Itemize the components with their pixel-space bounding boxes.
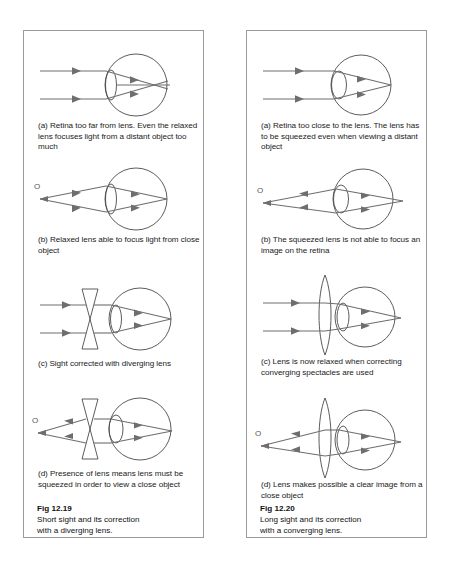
eyeball-outline <box>331 55 391 115</box>
between-lens-ray-top <box>325 303 339 304</box>
diagram-block-12-20-d: O (d) Lens makes possible a clear image … <box>247 394 426 501</box>
diagram-block-12-19-b: O (b) Relaxed lens able to focus light f… <box>24 163 203 256</box>
diagram-block-12-19-d: O (d) Presence of lens means lens must b… <box>24 389 203 490</box>
object-ray-top <box>261 430 325 446</box>
eye-lens-relaxed <box>110 305 121 333</box>
figure-number-12-20: Fig 12.20 <box>260 504 304 515</box>
panel-caption-12-20-c: (c) Lens is now relaxed when correcting … <box>247 357 426 378</box>
refracted-ray-bottom <box>106 199 167 212</box>
eye-diagram-12-20-b: O <box>251 163 423 235</box>
eye-diagram-12-19-b: O <box>28 163 200 235</box>
diagram-block-12-19-c: (c) Sight corrected with diverging lens <box>24 279 203 370</box>
eye-lens-relaxed <box>105 184 116 214</box>
refracted-ray-bottom <box>336 201 403 213</box>
refracted-ray-bottom <box>334 85 391 99</box>
refracted-ray-top <box>106 186 167 199</box>
panel-caption-12-19-a: (a) Retina too far from lens. Even the r… <box>24 121 203 153</box>
diverging-spectacle-lens <box>82 399 98 459</box>
panel-caption-12-20-a: (a) Retina too close to the lens. The le… <box>247 121 426 153</box>
eye-diagram-12-19-c <box>28 279 200 359</box>
refracted-ray-bottom <box>111 431 172 443</box>
diagram-block-12-20-a: (a) Retina too close to the lens. The le… <box>247 49 426 153</box>
object-ray-bottom <box>263 203 336 213</box>
refracted-ray-bottom <box>106 81 168 99</box>
ray-arrowheads <box>295 67 366 103</box>
eyeball-outline <box>335 287 395 347</box>
eyeball-outline <box>335 410 395 470</box>
eye-lens-relaxed <box>105 70 116 100</box>
panel-caption-12-19-d: (d) Presence of lens means lens must be … <box>24 469 203 490</box>
figure-title-text-12-20: Long sight and its correction with a con… <box>260 515 376 537</box>
panel-caption-12-19-b: (b) Relaxed lens able to focus light fro… <box>24 235 203 256</box>
eye-lens-relaxed <box>337 303 349 331</box>
object-point-label: O <box>32 416 38 425</box>
eye-diagram-12-20-a <box>251 49 423 121</box>
figure-title-12-19: Fig 12.19Short sight and its correction … <box>24 504 203 536</box>
figure-panel-short-sight: (a) Retina too far from lens. Even the r… <box>23 30 204 538</box>
object-point-label: O <box>257 186 263 195</box>
between-lens-ray-bottom <box>325 329 339 331</box>
eyeball-outline <box>109 288 171 350</box>
refracted-ray-top <box>111 305 171 319</box>
figure-title-12-20: Fig 12.20Long sight and its correction w… <box>247 504 426 536</box>
ray-arrowheads <box>62 301 143 337</box>
figure-panel-long-sight: (a) Retina too close to the lens. The le… <box>246 30 427 538</box>
between-lens-ray-bottom <box>325 454 339 456</box>
object-ray-top <box>263 189 336 203</box>
diagram-block-12-20-c: (c) Lens is now relaxed when correcting … <box>247 271 426 378</box>
eye-diagram-12-19-a <box>28 49 200 121</box>
converging-spectacle-lens <box>319 398 331 478</box>
object-point-label: O <box>34 182 40 191</box>
figure-title-text-12-19: Short sight and its correction with a di… <box>37 515 153 537</box>
eyeball-outline <box>333 169 393 229</box>
eye-diagram-12-20-d: O <box>251 394 423 480</box>
diverging-spectacle-lens <box>82 289 98 349</box>
eyeball-outline <box>105 168 167 230</box>
panel-caption-12-20-d: (d) Lens makes possible a clear image fr… <box>247 480 426 501</box>
figure-number-12-19: Fig 12.19 <box>37 504 81 515</box>
refracted-ray-top <box>339 430 401 442</box>
eye-lens-squeezed <box>331 71 346 99</box>
object-ray-bottom <box>261 446 325 456</box>
converging-spectacle-lens <box>319 275 331 355</box>
diagram-block-12-19-a: (a) Retina too far from lens. Even the r… <box>24 49 203 153</box>
object-point-label: O <box>255 429 261 438</box>
figure-page: (a) Retina too far from lens. Even the r… <box>0 0 449 583</box>
eye-diagram-12-20-c <box>251 271 423 357</box>
diagram-block-12-20-b: O (b) The squeezed lens is not able to f… <box>247 163 426 256</box>
panel-caption-12-19-c: (c) Sight corrected with diverging lens <box>24 359 203 370</box>
ray-arrowheads <box>261 431 370 454</box>
panel-caption-12-20-b: (b) The squeezed lens is not able to foc… <box>247 235 426 256</box>
eye-diagram-12-19-d: O <box>28 389 200 469</box>
